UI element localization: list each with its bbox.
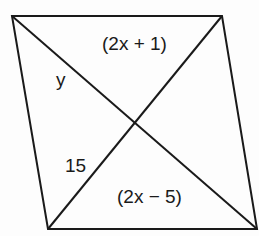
label-upper-right-segment: (2x + 1): [102, 34, 167, 53]
label-lower-right-segment: (2x − 5): [117, 187, 182, 206]
label-lower-left-segment: 15: [65, 156, 86, 175]
parallelogram-diagram: (2x + 1) y 15 (2x − 5): [0, 0, 259, 236]
label-upper-left-segment: y: [56, 70, 66, 89]
